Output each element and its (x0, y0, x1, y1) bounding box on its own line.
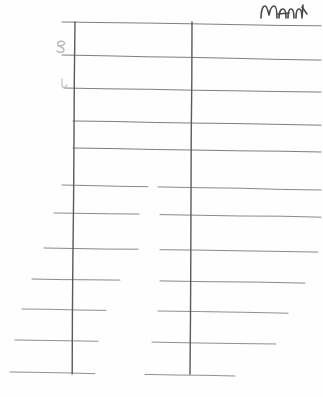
scanned-page: Hand-drawn ruled grid on paper MAN 8 ∨ (0, 0, 323, 397)
hand-drawn-grid (0, 0, 323, 397)
